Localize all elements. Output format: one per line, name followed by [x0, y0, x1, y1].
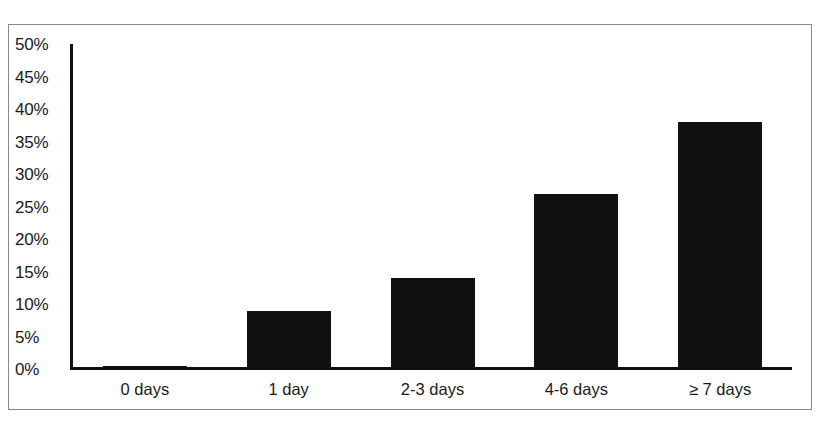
y-tick-label: 30%	[15, 166, 69, 183]
plot-area: 50%45%40%35%30%25%20%15%10%5%0% 0 days1 …	[9, 25, 811, 409]
y-tick-label: 25%	[15, 199, 69, 216]
bar	[678, 122, 762, 369]
y-tick-label: 50%	[15, 36, 69, 53]
x-tick-label: ≥ 7 days	[648, 381, 792, 398]
y-tick-label: 35%	[15, 134, 69, 151]
bar	[247, 311, 331, 370]
y-tick-label: 5%	[15, 329, 69, 346]
x-axis: 0 days1 day2-3 days4-6 days≥ 7 days	[73, 375, 792, 409]
greater-equal-icon: ≥	[689, 380, 698, 398]
y-tick-label: 15%	[15, 264, 69, 281]
x-tick-label: 1 day	[217, 381, 361, 398]
chart-figure: 50%45%40%35%30%25%20%15%10%5%0% 0 days1 …	[8, 24, 812, 410]
bar	[391, 278, 475, 369]
y-tick-label: 40%	[15, 101, 69, 118]
y-tick-label: 20%	[15, 231, 69, 248]
bar	[103, 366, 187, 369]
x-tick-label: 2-3 days	[361, 381, 505, 398]
bar	[534, 194, 618, 370]
bar-series	[73, 25, 792, 369]
y-tick-label: 0%	[15, 361, 69, 378]
y-axis: 50%45%40%35%30%25%20%15%10%5%0%	[15, 25, 69, 409]
x-tick-label: 0 days	[73, 381, 217, 398]
y-tick-label: 10%	[15, 296, 69, 313]
y-tick-label: 45%	[15, 69, 69, 86]
x-tick-label: 4-6 days	[504, 381, 648, 398]
